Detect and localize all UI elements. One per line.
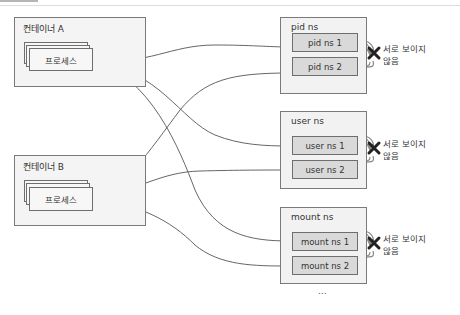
isolation-label-line2: 않음 xyxy=(383,245,426,257)
mount-ns-1: mount ns 1 xyxy=(292,232,358,251)
pid-ns-2: pid ns 2 xyxy=(292,57,358,76)
pid-ns-1: pid ns 1 xyxy=(292,33,358,52)
isolation-label-line1: 서로 보이지 xyxy=(383,138,426,150)
container-a: 컨테이너 A 프로세스 xyxy=(14,17,146,87)
pid-ns-title: pid ns xyxy=(291,22,318,32)
pid-isolation-label: 서로 보이지 않음 xyxy=(383,43,426,67)
process-a: 프로세스 xyxy=(29,48,93,71)
more-namespaces-indicator: ... xyxy=(318,286,327,296)
isolation-label-line1: 서로 보이지 xyxy=(383,233,426,245)
isolation-label-line1: 서로 보이지 xyxy=(383,43,426,55)
mount-ns-group: mount ns mount ns 1 mount ns 2 xyxy=(280,207,367,284)
user-ns-2: user ns 2 xyxy=(292,160,358,179)
user-ns-1: user ns 1 xyxy=(292,136,358,155)
mount-ns-2: mount ns 2 xyxy=(292,256,358,275)
mount-isolation-label: 서로 보이지 않음 xyxy=(383,233,426,257)
isolation-label-line2: 않음 xyxy=(383,55,426,67)
mount-ns-title: mount ns xyxy=(291,212,333,222)
container-b-label: 컨테이너 B xyxy=(23,160,64,173)
user-ns-group: user ns user ns 1 user ns 2 xyxy=(280,111,367,189)
container-b: 컨테이너 B 프로세스 xyxy=(14,155,146,226)
container-a-label: 컨테이너 A xyxy=(23,22,64,35)
user-ns-title: user ns xyxy=(291,116,324,126)
process-b: 프로세스 xyxy=(29,187,93,211)
pid-ns-group: pid ns pid ns 1 pid ns 2 xyxy=(280,17,367,94)
user-isolation-label: 서로 보이지 않음 xyxy=(383,138,426,162)
isolation-label-line2: 않음 xyxy=(383,150,426,162)
